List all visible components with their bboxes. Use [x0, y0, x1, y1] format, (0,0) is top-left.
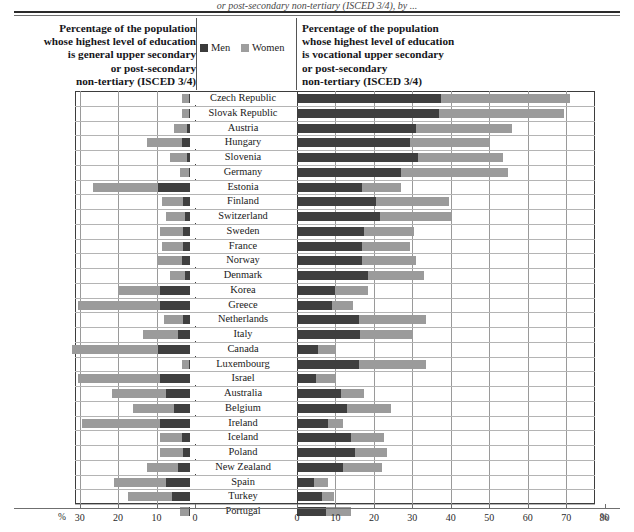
row-separator — [75, 460, 595, 461]
chart-row: Ireland — [75, 416, 595, 431]
bar-general-women — [78, 301, 161, 310]
chart-plot-area: Czech RepublicSlovak RepublicAustriaHung… — [75, 91, 595, 504]
bar-vocational-men — [297, 478, 314, 487]
tick-label-right-40: 40 — [431, 511, 471, 524]
country-label: Spain — [190, 475, 296, 490]
chart-row: Austria — [75, 121, 595, 136]
bar-general-women — [147, 463, 178, 472]
chart-row: Australia — [75, 386, 595, 401]
right-axis-unit: % — [600, 511, 608, 524]
country-label: Estonia — [190, 180, 296, 195]
bar-vocational-women — [410, 138, 489, 147]
bar-vocational-women — [359, 360, 426, 369]
bar-vocational-women — [401, 168, 509, 177]
bar-general-women — [182, 360, 190, 369]
country-label: New Zealand — [190, 460, 296, 475]
row-separator — [75, 106, 595, 107]
row-separator — [75, 135, 595, 136]
bar-general-women — [170, 271, 185, 280]
tick-label-left-0: 0 — [175, 511, 215, 524]
chart-row: Slovak Republic — [75, 106, 595, 121]
tick-label-left-20: 20 — [98, 511, 138, 524]
bar-vocational-men — [297, 433, 351, 442]
tick-right-30 — [412, 504, 413, 509]
bar-vocational-women — [376, 197, 449, 206]
tick-label-right-30: 30 — [392, 511, 432, 524]
tick-label-right-10: 10 — [315, 511, 355, 524]
row-separator — [75, 357, 595, 358]
legend-label-men: Men — [211, 41, 230, 55]
bar-vocational-women — [362, 256, 416, 265]
bar-vocational-men — [297, 212, 380, 221]
bar-vocational-men — [297, 242, 362, 251]
country-label: Turkey — [190, 489, 296, 504]
country-label: Ireland — [190, 416, 296, 431]
bar-vocational-men — [297, 301, 332, 310]
row-separator — [75, 150, 595, 151]
bar-vocational-women — [341, 389, 364, 398]
row-separator — [75, 416, 595, 417]
tick-label-right-0: 0 — [277, 511, 317, 524]
row-separator — [75, 386, 595, 387]
bar-general-women — [78, 374, 161, 383]
tick-right-0 — [297, 504, 298, 509]
bar-general-women — [143, 330, 178, 339]
tick-left-10 — [157, 504, 158, 509]
chart-row: New Zealand — [75, 460, 595, 475]
tick-right-80 — [605, 504, 606, 509]
bar-vocational-men — [297, 94, 441, 103]
bar-vocational-women — [328, 419, 343, 428]
chart-row: Spain — [75, 475, 595, 490]
country-label: Norway — [190, 253, 296, 268]
row-separator — [75, 371, 595, 372]
chart-legend: Men Women — [200, 41, 298, 55]
country-label: Denmark — [190, 268, 296, 283]
chart-row: Turkey — [75, 489, 595, 504]
bar-vocational-women — [441, 94, 570, 103]
bar-vocational-women — [351, 433, 384, 442]
left-panel-title: Percentage of the populationwhose highes… — [18, 22, 196, 88]
chart-row: Poland — [75, 445, 595, 460]
bar-vocational-men — [297, 360, 359, 369]
row-separator — [75, 283, 595, 284]
country-label: Germany — [190, 165, 296, 180]
tick-right-70 — [566, 504, 567, 509]
row-separator — [75, 239, 595, 240]
row-separator — [75, 224, 595, 225]
bar-vocational-men — [297, 124, 416, 133]
chart-row: Denmark — [75, 268, 595, 283]
bar-vocational-men — [297, 168, 401, 177]
country-label: Poland — [190, 445, 296, 460]
bar-vocational-men — [297, 197, 376, 206]
bar-vocational-men — [297, 345, 318, 354]
bar-general-women — [164, 315, 183, 324]
bar-vocational-women — [318, 345, 335, 354]
row-separator — [75, 401, 595, 402]
country-label: Belgium — [190, 401, 296, 416]
country-label: Greece — [190, 298, 296, 313]
bar-vocational-women — [418, 153, 503, 162]
bar-vocational-women — [314, 478, 327, 487]
chart-row: Slovenia — [75, 150, 595, 165]
bar-general-women — [160, 448, 183, 457]
row-separator — [75, 165, 595, 166]
chart-row: Italy — [75, 327, 595, 342]
bar-general-women — [174, 124, 187, 133]
bar-vocational-women — [347, 404, 391, 413]
chart-row: Netherlands — [75, 312, 595, 327]
legend-swatch-women — [241, 44, 249, 52]
bar-general-women — [160, 433, 181, 442]
bar-vocational-women — [343, 463, 381, 472]
tick-right-20 — [374, 504, 375, 509]
header-separator-right — [296, 18, 297, 90]
bar-vocational-men — [297, 286, 335, 295]
country-label: Finland — [190, 194, 296, 209]
row-separator — [75, 180, 595, 181]
bar-general-women — [180, 168, 190, 177]
chart-row: Switzerland — [75, 209, 595, 224]
tick-left-0 — [195, 504, 196, 509]
top-rule-thin — [14, 15, 620, 16]
bar-vocational-men — [297, 109, 439, 118]
country-label: Australia — [190, 386, 296, 401]
bar-vocational-men — [297, 256, 362, 265]
